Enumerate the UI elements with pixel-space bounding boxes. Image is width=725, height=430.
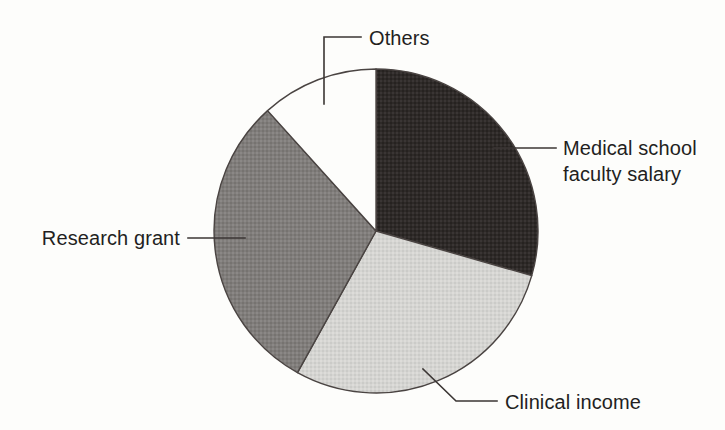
pie-label-medical-school-line1: Medical school [563, 137, 697, 159]
pie-label-research-grant: Research grant [42, 227, 180, 249]
pie-label-others: Others [369, 27, 430, 49]
pie-label-medical-school-line2: faculty salary [563, 163, 681, 185]
pie-chart-canvas: Others Medical school faculty salary Res… [0, 0, 725, 430]
pie-chart-figure: Others Medical school faculty salary Res… [0, 0, 725, 430]
pie-label-clinical-income: Clinical income [505, 391, 641, 413]
